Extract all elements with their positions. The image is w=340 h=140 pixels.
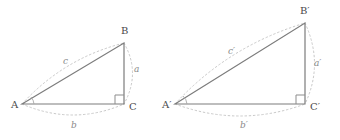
triangle-abc-prime-outline bbox=[175, 23, 305, 104]
side-label-b-prime: b′ bbox=[240, 120, 248, 130]
arc-side-b-prime bbox=[175, 104, 305, 116]
vertex-label-b: B bbox=[121, 25, 128, 36]
vertex-label-c-prime: C′ bbox=[310, 101, 321, 112]
triangle-abc-prime-group: A′ B′ C′ a′ b′ c′ bbox=[161, 5, 321, 130]
arc-side-a bbox=[124, 43, 133, 104]
triangle-abc-group: A B C a b c bbox=[10, 25, 139, 130]
geometry-figure: A B C a b c A′ B′ C′ bbox=[0, 0, 340, 140]
vertex-label-a: A bbox=[10, 99, 19, 110]
vertex-label-a-prime: A′ bbox=[161, 99, 172, 110]
side-label-a-prime: a′ bbox=[314, 58, 321, 68]
similar-triangles-diagram: A B C a b c A′ B′ C′ bbox=[0, 0, 340, 140]
side-label-c: c bbox=[63, 56, 68, 66]
side-label-c-prime: c′ bbox=[228, 46, 235, 56]
right-angle-marker-c-prime bbox=[296, 95, 305, 104]
triangle-abc-outline bbox=[22, 43, 124, 104]
side-label-b: b bbox=[71, 120, 77, 130]
vertex-label-c: C bbox=[129, 101, 137, 112]
arc-side-b bbox=[22, 104, 124, 115]
side-label-a: a bbox=[134, 64, 139, 74]
vertex-label-b-prime: B′ bbox=[300, 5, 310, 16]
right-angle-marker-c bbox=[115, 95, 124, 104]
